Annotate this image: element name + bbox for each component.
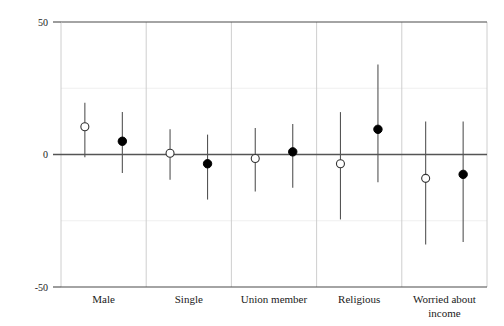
filled-circle-marker <box>203 160 211 168</box>
datapoint-single-s1 <box>166 129 174 179</box>
datapoint-male-s2 <box>118 112 126 173</box>
datapoint-male-s1 <box>81 103 89 157</box>
hollow-circle-marker <box>81 123 89 131</box>
x-axis-label-2: Single <box>175 293 203 305</box>
datapoint-union-member-s1 <box>251 128 259 192</box>
x-axis-label-1: Male <box>92 293 115 305</box>
datapoint-worried-about-income-s1 <box>422 121 430 244</box>
axis-group <box>53 22 487 287</box>
x-axis-label-line1: Single <box>175 293 203 305</box>
x-axis-label-line1: Male <box>92 293 115 305</box>
hollow-circle-marker <box>166 149 174 157</box>
x-axis-label-line2: income <box>428 307 460 319</box>
hollow-circle-marker <box>422 174 430 182</box>
x-axis-label-4: Religious <box>338 293 380 305</box>
x-tick-label-group: MaleSingleUnion memberReligiousWorried a… <box>92 293 476 319</box>
series-1-hollow-circle <box>81 103 430 245</box>
hollow-circle-marker <box>336 160 344 168</box>
coefficient-plot: 500-50 MaleSingleUnion memberReligiousWo… <box>0 0 504 326</box>
y-tick-label-group: 500-50 <box>35 17 48 293</box>
datapoint-worried-about-income-s2 <box>459 121 467 242</box>
x-axis-label-5: Worried aboutincome <box>413 293 476 319</box>
datapoint-religious-s2 <box>374 64 382 182</box>
plot-canvas: 500-50 MaleSingleUnion memberReligiousWo… <box>0 0 504 326</box>
y-axis-label-top: 50 <box>38 17 48 28</box>
filled-circle-marker <box>289 148 297 156</box>
x-axis-label-line1: Worried about <box>413 293 476 305</box>
filled-circle-marker <box>459 170 467 178</box>
datapoint-single-s2 <box>203 135 211 200</box>
datapoint-religious-s1 <box>336 112 344 219</box>
y-axis-label-bottom: -50 <box>35 282 48 293</box>
filled-circle-marker <box>118 137 126 145</box>
x-axis-label-3: Union member <box>241 293 308 305</box>
hollow-circle-marker <box>251 154 259 162</box>
x-axis-label-line1: Union member <box>241 293 308 305</box>
x-axis-label-line1: Religious <box>338 293 380 305</box>
datapoint-union-member-s2 <box>289 124 297 188</box>
y-axis-label-zero: 0 <box>43 149 48 160</box>
filled-circle-marker <box>374 125 382 133</box>
